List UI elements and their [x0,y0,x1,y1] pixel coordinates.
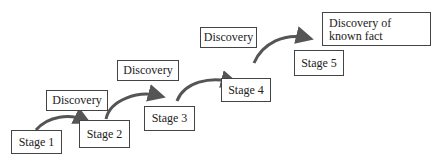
stage-4-box: Stage 4 [221,78,271,102]
discovery-stages-diagram: Stage 1 Stage 2 Stage 3 Stage 4 Stage 5 … [0,0,441,166]
stage-label: Stage 3 [152,112,188,125]
stage-label: Stage 5 [301,57,337,70]
discovery-known-fact-box: Discovery of known fact [322,12,431,46]
stage-3-box: Stage 3 [144,106,195,131]
discovery-label: Discovery [52,94,101,107]
stage-label: Stage 1 [19,136,55,149]
discovery-label: Discovery [204,31,253,44]
stage-2-box: Stage 2 [79,120,130,148]
discovery-label: Discovery [123,64,172,77]
stage-label: Stage 4 [228,84,264,97]
stage-1-box: Stage 1 [11,130,62,154]
discovery-box-3: Discovery [200,27,257,48]
stage-5-box: Stage 5 [294,50,344,76]
discovery-label: Discovery of known fact [329,17,424,43]
discovery-box-1: Discovery [46,90,108,111]
discovery-box-2: Discovery [117,60,179,81]
stage-label: Stage 2 [87,128,123,141]
